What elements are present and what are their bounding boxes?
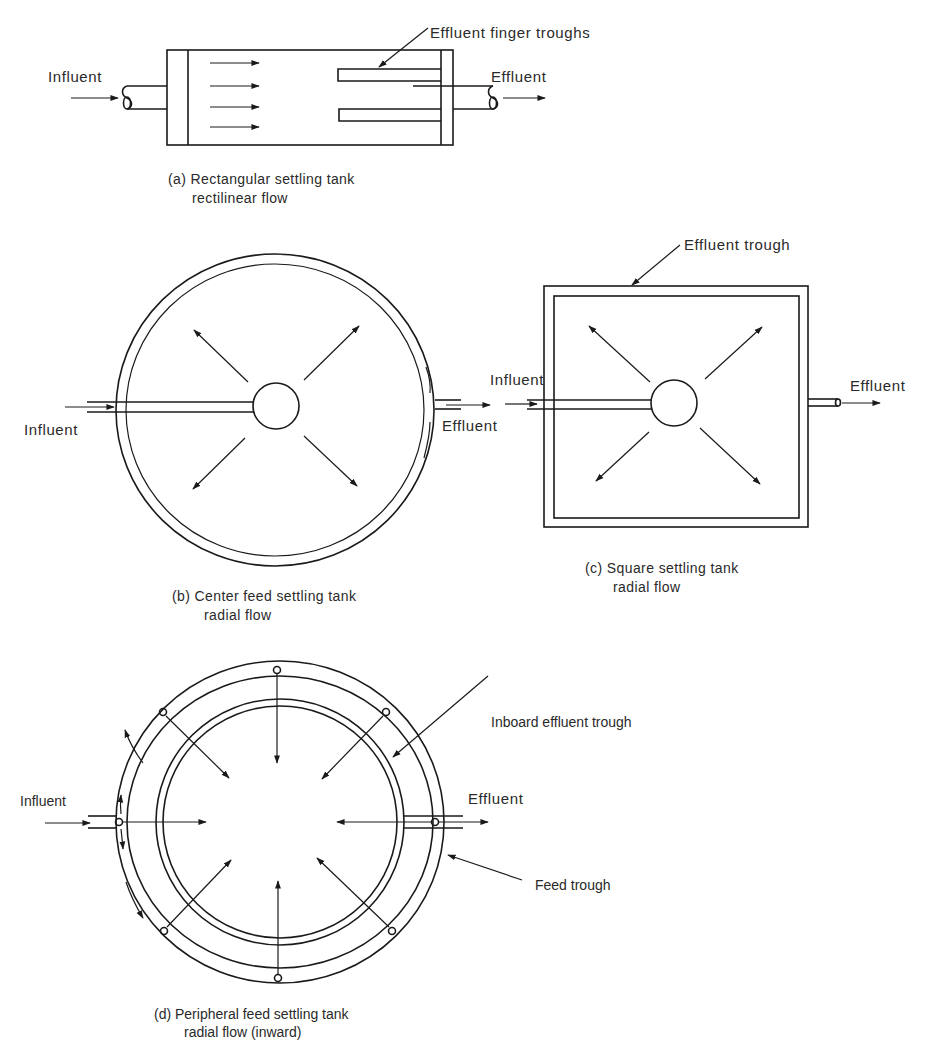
influent-label: Influent — [20, 793, 66, 809]
trough-mark-lower — [424, 422, 430, 458]
effluent-label: Effluent — [850, 377, 906, 394]
settling-tank-figure: Influent Effluent Effluent finger trough… — [0, 0, 933, 1047]
radial-flow-arrows — [589, 326, 762, 484]
trough-leader — [632, 245, 680, 285]
caption-d-line2: radial flow (inward) — [184, 1024, 301, 1040]
finger-trough-lower — [339, 109, 441, 121]
caption-b-line1: (b) Center feed settling tank — [172, 588, 357, 604]
finger-trough-upper — [338, 69, 441, 81]
caption-c-line2: radial flow — [613, 579, 681, 595]
radial-flow-arrows — [193, 326, 359, 489]
rect-tank-outline — [167, 50, 453, 145]
square-tank-outer — [544, 286, 808, 527]
effluent-label: Effluent — [468, 790, 524, 807]
square-tank-inner — [554, 296, 799, 518]
finger-troughs-label: Effluent finger troughs — [430, 24, 590, 41]
influent-label: Influent — [24, 421, 78, 438]
effluent-label: Effluent — [442, 417, 498, 434]
panel-b-center-feed-tank: Influent Effluent (b) Center feed settli… — [24, 254, 498, 623]
outlet-pipe-end — [836, 399, 841, 406]
feed-trough-leader — [448, 855, 522, 880]
feed-trough-label: Feed trough — [535, 877, 611, 893]
inlet-pipe — [71, 86, 167, 109]
caption-b-line2: radial flow — [204, 607, 272, 623]
tank-outer-wall — [116, 254, 434, 566]
troughs-leader — [379, 28, 428, 67]
inboard-trough-label: Inboard effluent trough — [491, 714, 632, 730]
panel-c-square-tank: Influent Effluent Effluent trough (c) Sq… — [490, 236, 906, 595]
caption-c-line1: (c) Square settling tank — [585, 560, 739, 576]
effluent-trough-label: Effluent trough — [684, 236, 790, 253]
panel-d-peripheral-feed-tank: Influent Effluent Inboard effluent troug… — [20, 661, 632, 1040]
inboard-trough-leader — [393, 676, 488, 757]
influent-label: Influent — [490, 371, 544, 388]
caption-d-line1: (d) Peripheral feed settling tank — [154, 1006, 350, 1022]
effluent-label: Effluent — [491, 68, 547, 85]
center-feed-well — [651, 380, 697, 426]
outlet-pipe — [413, 86, 545, 109]
flow-arrows — [210, 63, 259, 127]
influent-label: Influent — [48, 68, 102, 85]
tank-inner-wall — [126, 264, 424, 556]
caption-a-line1: (a) Rectangular settling tank — [168, 171, 355, 187]
caption-a-line2: rectilinear flow — [192, 190, 288, 206]
center-feed-well — [253, 383, 299, 429]
panel-a-rectangular-tank: Influent Effluent Effluent finger trough… — [48, 24, 590, 206]
